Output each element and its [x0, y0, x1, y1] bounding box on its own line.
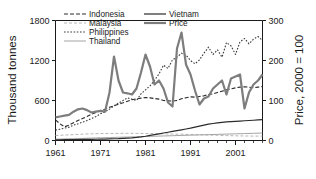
y-tick-label: 600: [34, 96, 49, 106]
y2-tick-label: 100: [269, 96, 284, 106]
y-axis-title: Thousand tonnes: [6, 35, 18, 124]
x-tick-label: 1961: [45, 148, 65, 158]
y-tick-label: 0: [44, 136, 49, 146]
y-tick-label: 1200: [29, 56, 49, 66]
y-tick-label: 1800: [29, 16, 49, 26]
legend-label-thailand: Thailand: [89, 37, 121, 46]
y2-tick-label: 0: [269, 136, 274, 146]
x-tick-label: 1981: [135, 148, 155, 158]
legend-label-malaysia: Malaysia: [89, 19, 122, 28]
rice-production-price-line-chart: Thousand tonnes Price, 2000 = 100 060012…: [0, 0, 316, 179]
legend-label-indonesia: Indonesia: [89, 10, 125, 19]
x-tick-label: 1991: [180, 148, 200, 158]
y2-tick-label: 200: [269, 56, 284, 66]
y2-axis-title: Price, 2000 = 100: [293, 35, 305, 125]
x-tick-label: 1971: [90, 148, 110, 158]
legend-label-price: Price: [169, 19, 188, 28]
legend-label-philippines: Philippines: [89, 28, 129, 37]
legend-label-vietnam: Vietnam: [169, 10, 199, 19]
chart-figure: Thousand tonnes Price, 2000 = 100 060012…: [0, 0, 316, 179]
x-tick-label: 2001: [225, 148, 245, 158]
y2-tick-label: 300: [269, 16, 284, 26]
